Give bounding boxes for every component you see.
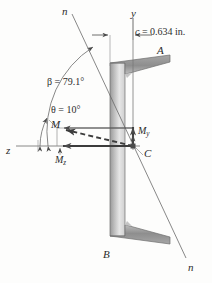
- label-moment-y: My: [138, 126, 150, 138]
- label-theta-angle: θ = 10°: [51, 105, 80, 115]
- label-neutral-axis-bottom: n: [188, 262, 194, 273]
- label-point-a: A: [157, 45, 164, 56]
- label-moment-z: Mz: [55, 155, 66, 167]
- label-z-axis: z: [6, 145, 10, 156]
- beta-angle-arc: [47, 47, 93, 146]
- channel-web: [110, 63, 125, 236]
- label-point-b: B: [103, 249, 110, 260]
- label-moment-resultant: M: [51, 119, 60, 130]
- channel-cross-section: [110, 55, 170, 244]
- bending-diagram-figure: n n y z A B C c = 0.634 in. β = 79.1° θ …: [0, 0, 212, 283]
- label-y-axis: y: [131, 8, 136, 19]
- label-neutral-axis-top: n: [62, 6, 68, 17]
- centroid-distance-value-text: =: [139, 26, 150, 37]
- centroid-marker: [131, 144, 136, 149]
- label-beta-angle: β = 79.1°: [47, 77, 84, 87]
- label-centroid: C: [144, 148, 151, 159]
- centroid-distance-value: 0.634 in.: [150, 26, 185, 37]
- moment-y-subscript: y: [146, 130, 149, 138]
- theta-angle-arc: [40, 118, 47, 146]
- diagram-canvas: [0, 0, 212, 283]
- moment-z-subscript: z: [63, 159, 66, 167]
- label-centroid-distance: c = 0.634 in.: [135, 27, 185, 37]
